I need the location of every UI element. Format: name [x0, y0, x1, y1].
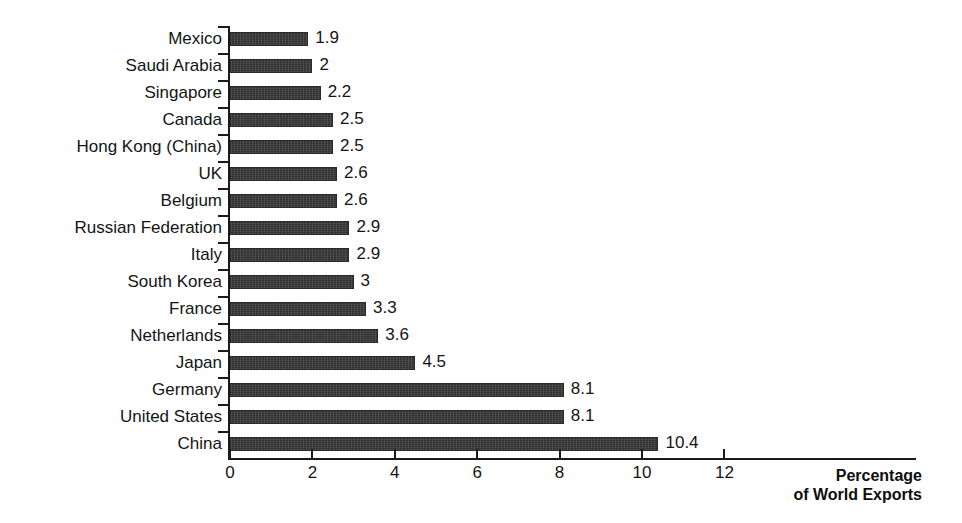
- bar-fill: [230, 86, 321, 100]
- bar-row: United States8.1: [0, 404, 962, 431]
- category-label: Singapore: [0, 83, 222, 103]
- bar: [230, 275, 354, 289]
- bar-row: Mexico1.9: [0, 26, 962, 53]
- x-axis-tick-label: 4: [365, 463, 425, 483]
- bar-row: China10.4: [0, 431, 962, 458]
- value-label: 2.6: [344, 163, 368, 183]
- y-axis-tick: [218, 26, 229, 28]
- x-axis-tick-label: 6: [447, 463, 507, 483]
- bar-chart: Mexico1.9Saudi Arabia2Singapore2.2Canada…: [0, 0, 962, 523]
- bar-row: UK2.6: [0, 161, 962, 188]
- bar-rows: Mexico1.9Saudi Arabia2Singapore2.2Canada…: [0, 26, 962, 458]
- bar: [230, 167, 337, 181]
- category-label: Germany: [0, 380, 222, 400]
- bar-row: Hong Kong (China)2.5: [0, 134, 962, 161]
- x-axis-title: Percentage of World Exports: [793, 466, 922, 504]
- bar-fill: [230, 167, 337, 181]
- y-axis-tick: [218, 215, 229, 217]
- bar: [230, 356, 415, 370]
- x-axis-tick: [641, 449, 643, 459]
- y-axis-tick: [218, 80, 229, 82]
- value-label: 8.1: [571, 379, 595, 399]
- value-label: 3: [361, 271, 370, 291]
- value-label: 8.1: [571, 406, 595, 426]
- y-axis-tick: [218, 269, 229, 271]
- x-axis-tick: [559, 449, 561, 459]
- value-label: 1.9: [315, 28, 339, 48]
- y-axis-tick: [218, 161, 229, 163]
- bar: [230, 140, 333, 154]
- category-label: Hong Kong (China): [0, 137, 222, 157]
- y-axis-tick: [218, 134, 229, 136]
- bar-fill: [230, 32, 308, 46]
- bar: [230, 248, 349, 262]
- value-label: 3.3: [373, 298, 397, 318]
- x-axis-line: [228, 458, 916, 460]
- value-label: 10.4: [665, 433, 698, 453]
- category-label: United States: [0, 407, 222, 427]
- category-label: Mexico: [0, 29, 222, 49]
- x-axis-tick: [476, 449, 478, 459]
- x-axis-tick: [229, 449, 231, 459]
- bar-row: Canada2.5: [0, 107, 962, 134]
- category-label: France: [0, 299, 222, 319]
- bar-fill: [230, 329, 378, 343]
- x-axis-tick-label: 10: [612, 463, 672, 483]
- category-label: UK: [0, 164, 222, 184]
- bar-row: Italy2.9: [0, 242, 962, 269]
- bar-row: Singapore2.2: [0, 80, 962, 107]
- bar: [230, 383, 564, 397]
- value-label: 2.6: [344, 190, 368, 210]
- x-axis-tick-label: 0: [200, 463, 260, 483]
- y-axis-tick: [218, 296, 229, 298]
- value-label: 2.9: [356, 217, 380, 237]
- bar-fill: [230, 248, 349, 262]
- bar-row: Russian Federation2.9: [0, 215, 962, 242]
- category-label: South Korea: [0, 272, 222, 292]
- category-label: Netherlands: [0, 326, 222, 346]
- bar: [230, 302, 366, 316]
- category-label: China: [0, 434, 222, 454]
- x-axis-tick: [394, 449, 396, 459]
- value-label: 2.5: [340, 109, 364, 129]
- x-axis-title-line-1: Percentage: [793, 466, 922, 485]
- y-axis-tick: [218, 323, 229, 325]
- bar-fill: [230, 113, 333, 127]
- category-label: Saudi Arabia: [0, 56, 222, 76]
- value-label: 2.2: [328, 82, 352, 102]
- x-axis-tick-label: 12: [694, 463, 754, 483]
- bar-row: South Korea3: [0, 269, 962, 296]
- x-axis-tick-label: 8: [530, 463, 590, 483]
- bar: [230, 113, 333, 127]
- value-label: 2.5: [340, 136, 364, 156]
- y-axis-tick: [218, 404, 229, 406]
- category-label: Canada: [0, 110, 222, 130]
- y-axis-tick: [218, 377, 229, 379]
- bar-fill: [230, 140, 333, 154]
- x-axis-title-line-2: of World Exports: [793, 485, 922, 504]
- bar-row: Germany8.1: [0, 377, 962, 404]
- bar: [230, 410, 564, 424]
- bar: [230, 86, 321, 100]
- bar: [230, 194, 337, 208]
- y-axis-tick: [218, 350, 229, 352]
- value-label: 2: [319, 55, 328, 75]
- bar-fill: [230, 302, 366, 316]
- category-label: Russian Federation: [0, 218, 222, 238]
- bar-fill: [230, 383, 564, 397]
- bar: [230, 221, 349, 235]
- y-axis-tick: [218, 107, 229, 109]
- x-axis-tick-label: 2: [282, 463, 342, 483]
- bar-row: Japan4.5: [0, 350, 962, 377]
- bar: [230, 437, 658, 451]
- bar-fill: [230, 437, 658, 451]
- bar-fill: [230, 194, 337, 208]
- bar-row: Belgium2.6: [0, 188, 962, 215]
- y-axis-tick: [218, 188, 229, 190]
- bar-row: France3.3: [0, 296, 962, 323]
- bar-row: Netherlands3.6: [0, 323, 962, 350]
- bar-fill: [230, 59, 312, 73]
- bar: [230, 32, 308, 46]
- category-label: Japan: [0, 353, 222, 373]
- y-axis-tick: [218, 242, 229, 244]
